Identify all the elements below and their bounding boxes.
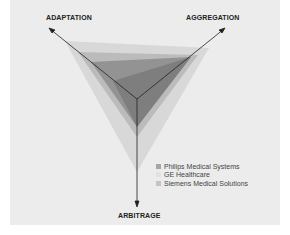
legend-item: Siemens Medical Solutions — [156, 179, 248, 188]
legend-label: Philips Medical Systems — [164, 163, 239, 170]
radar-chart — [0, 0, 290, 235]
legend-item: GE Healthcare — [156, 171, 248, 180]
legend-label: Siemens Medical Solutions — [164, 180, 248, 187]
swatch-icon — [156, 181, 161, 186]
axis-label-adaptation: ADAPTATION — [46, 14, 92, 21]
axis-label-aggregation: AGGREGATION — [186, 14, 239, 21]
legend-item: Philips Medical Systems — [156, 162, 248, 171]
legend-label: GE Healthcare — [164, 171, 210, 178]
swatch-icon — [156, 172, 161, 177]
swatch-icon — [156, 164, 161, 169]
axis-label-arbitrage: ARBITRAGE — [118, 212, 161, 219]
legend: Philips Medical Systems GE Healthcare Si… — [156, 162, 248, 188]
